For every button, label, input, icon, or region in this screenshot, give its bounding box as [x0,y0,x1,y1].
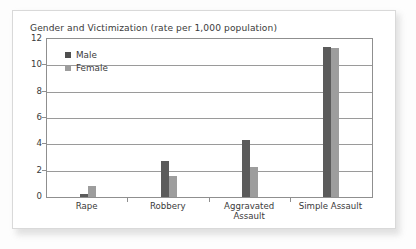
y-axis-tick-label: 0 [22,191,42,201]
legend-label-female: Female [76,63,108,73]
bar-male [80,194,88,197]
legend-item-male: Male [65,49,108,61]
bar-group [161,39,177,197]
x-axis-label-line: Aggravated [209,201,290,211]
y-axis-tick-label: 6 [22,112,42,122]
y-axis-tick-labels: 024681012 [18,38,42,198]
x-axis-tick-label: Rape [46,201,127,211]
bar-female [169,176,177,197]
bar-group [323,39,339,197]
x-axis-tick-label: Robbery [127,201,208,211]
chart-legend: Male Female [65,49,108,75]
female-swatch-icon [65,65,71,71]
y-axis-tick-label: 2 [22,165,42,175]
y-axis-tick-label: 10 [22,59,42,69]
bar-male [242,140,250,197]
chart-title: Gender and Victimization (rate per 1,000… [30,23,277,33]
x-axis-label-line: Simple Assault [290,201,371,211]
y-axis-tick-label: 12 [22,33,42,43]
x-axis-tick-label: AggravatedAssault [209,201,290,221]
y-axis-tick-label: 4 [22,138,42,148]
bar-female [250,167,258,197]
legend-label-male: Male [76,50,97,60]
bar-female [88,186,96,197]
bar-female [331,48,339,197]
x-axis-label-line: Robbery [127,201,208,211]
bar-male [161,161,169,197]
male-swatch-icon [65,52,71,58]
legend-item-female: Female [65,62,108,74]
bar-male [323,47,331,197]
y-axis-tick-label: 8 [22,86,42,96]
x-axis-tick-label: Simple Assault [290,201,371,211]
x-axis-tick-labels: RapeRobberyAggravatedAssaultSimple Assau… [46,201,373,231]
x-axis-label-line: Assault [209,211,290,221]
bar-group [242,39,258,197]
page-root: Gender and Victimization (rate per 1,000… [0,0,416,249]
chart-card: Gender and Victimization (rate per 1,000… [12,10,396,229]
x-axis-label-line: Rape [46,201,127,211]
